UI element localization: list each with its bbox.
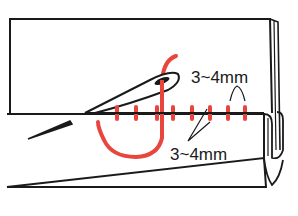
top-spacing-label: 3~4mm: [191, 68, 248, 87]
bottom-spacing-label: 3~4mm: [170, 145, 227, 164]
back-fabric-edge-2: [274, 20, 276, 150]
hem-fold-curl: [264, 158, 283, 185]
hem-stitch-diagram: 3~4mm 3~4mm: [0, 0, 298, 216]
